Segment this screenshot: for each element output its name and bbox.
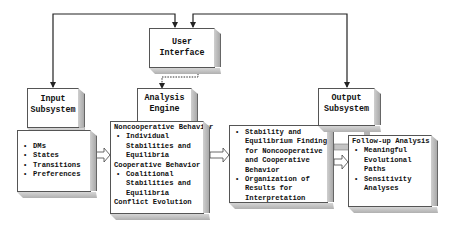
user-interface-box: User Interface <box>149 28 215 68</box>
input-title-2: Subsystem <box>28 105 78 116</box>
noncooperative-heading: Noncooperative Behavior <box>114 123 200 132</box>
analysis-engine-box: Analysis Engine <box>137 88 192 124</box>
follow-up-item: •Meaningful Evolutional Paths <box>352 146 428 174</box>
input-item: •Preferences <box>21 170 87 179</box>
input-subsystem-box: Input Subsystem <box>27 88 79 128</box>
bullet-icon: • <box>21 161 33 170</box>
input-item: •DMs <box>21 142 87 151</box>
input-details-box: •DMs •States •Transitions •Preferences <box>17 130 91 192</box>
cooperative-heading: Cooperative Behavior <box>114 161 200 170</box>
bullet-icon: • <box>114 170 126 198</box>
bullet-icon: • <box>233 175 245 203</box>
follow-up-item: •Sensitivity Analyses <box>352 175 428 194</box>
bullet-icon: • <box>21 151 33 160</box>
arrow-analysis-to-stability <box>210 148 229 162</box>
arrow-stability-to-followup <box>334 155 348 169</box>
analysis-title-1: Analysis <box>138 93 191 104</box>
stability-item: •Stability and Equilibrium Findings for … <box>233 128 324 175</box>
analysis-item: •Coalitional Stabilities and Equilibria <box>114 170 200 198</box>
input-title-1: Input <box>28 94 78 105</box>
input-item: •States <box>21 151 87 160</box>
analysis-details-box: Noncooperative Behavior •Individual Stab… <box>110 121 204 214</box>
user-interface-title-2: Interface <box>150 48 214 59</box>
stability-item: •Organization of Results for Interpretat… <box>233 175 324 203</box>
analysis-item: •Individual Stabilities and Equilibria <box>114 132 200 160</box>
bullet-icon: • <box>21 170 33 179</box>
bullet-icon: • <box>21 142 33 151</box>
conflict-evolution-label: Conflict Evolution <box>114 198 200 207</box>
bullet-icon: • <box>114 132 126 160</box>
bullet-icon: • <box>352 146 364 174</box>
analysis-title-2: Engine <box>138 104 191 115</box>
stability-findings-box: •Stability and Equilibrium Findings for … <box>229 125 328 203</box>
bullet-icon: • <box>352 175 364 194</box>
follow-up-analysis-box: Follow-up Analysis •Meaningful Evolution… <box>348 135 432 207</box>
input-item: •Transitions <box>21 161 87 170</box>
user-interface-title-1: User <box>150 37 214 48</box>
output-title-1: Output <box>319 93 374 104</box>
output-title-2: Subsystem <box>319 104 374 115</box>
bullet-icon: • <box>233 128 245 175</box>
follow-up-heading: Follow-up Analysis <box>352 137 428 146</box>
output-subsystem-box: Output Subsystem <box>318 88 375 126</box>
